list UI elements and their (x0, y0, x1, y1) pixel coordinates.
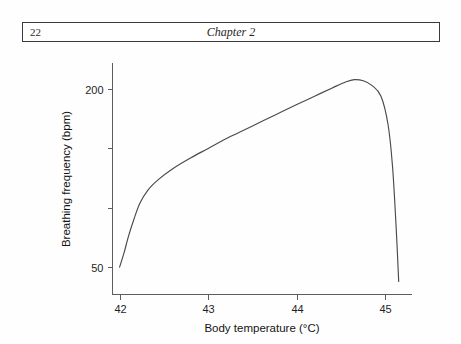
x-axis-tick-marks (121, 295, 386, 300)
y-axis-tick-labels: 50200 (85, 84, 103, 274)
y-tick-label-50: 50 (91, 262, 103, 274)
document-page: 22 Chapter 2 50200 42434445 Body tempera… (0, 0, 461, 344)
y-tick-label-200: 200 (85, 84, 103, 96)
y-axis-title: Breathing frequency (bpm) (60, 111, 72, 247)
data-curve-breathing-frequency (120, 80, 399, 282)
line-chart: 50200 42434445 Body temperature (°C) Bre… (0, 44, 461, 344)
x-axis-tick-labels: 42434445 (114, 303, 391, 315)
x-tick-label-42: 42 (114, 303, 126, 315)
x-tick-label-45: 45 (379, 303, 391, 315)
x-tick-label-43: 43 (202, 303, 214, 315)
y-axis-tick-marks (108, 90, 113, 268)
chapter-title: Chapter 2 (23, 25, 439, 40)
figure-breathing-frequency: 50200 42434445 Body temperature (°C) Bre… (0, 44, 461, 344)
x-tick-label-44: 44 (291, 303, 303, 315)
x-axis-title: Body temperature (°C) (204, 322, 319, 334)
page-header-box: 22 Chapter 2 (22, 22, 440, 42)
